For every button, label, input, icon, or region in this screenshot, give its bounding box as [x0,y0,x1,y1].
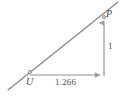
point-label-p: P [106,9,112,19]
vertical-measure-label: 1 [108,42,113,51]
point-marker-u [29,71,32,74]
geometry-figure: P U 1 1.266 [0,0,124,98]
point-label-u: U [26,77,33,87]
horizontal-measure-label: 1.266 [55,78,76,87]
